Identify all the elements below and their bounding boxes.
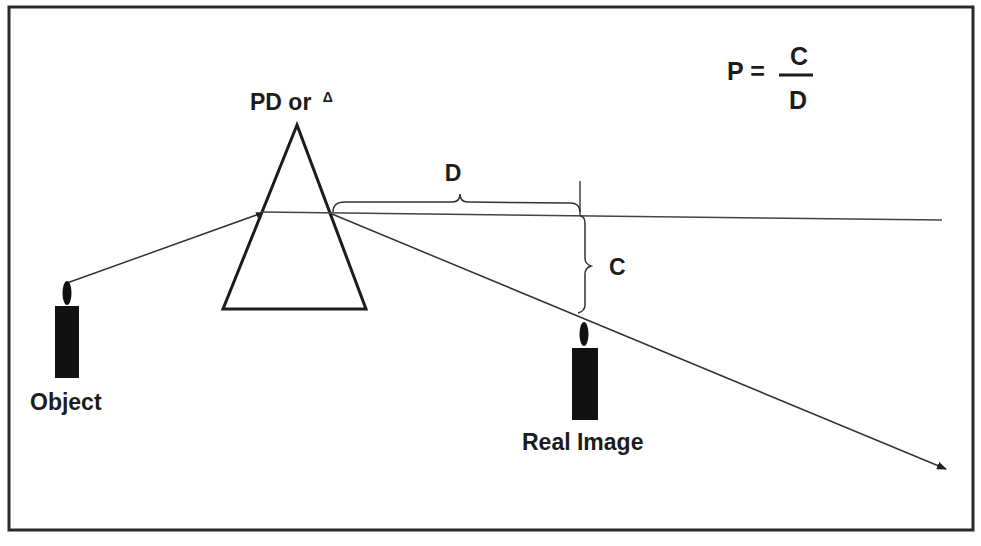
displacement-brace (578, 216, 591, 313)
prism-power-formula: P = C D (727, 42, 813, 114)
prism-diagram: P = C D PD or Δ D C Object Real Image (0, 0, 981, 546)
distance-brace (333, 194, 580, 212)
prism-label: PD or Δ (250, 89, 333, 115)
formula-lhs: P = (727, 57, 765, 85)
prism-delta-symbol: Δ (323, 89, 333, 105)
object-label: Object (30, 389, 102, 415)
prism-label-text: PD or (250, 89, 311, 115)
object-candle-body (55, 306, 79, 378)
image-candle-body (572, 348, 598, 420)
formula-denominator: D (789, 86, 807, 114)
object-flame (63, 281, 72, 305)
diagram-frame (9, 7, 973, 530)
object-candle-icon (55, 281, 79, 378)
undeviated-reference-line (262, 212, 942, 220)
distance-label: D (445, 160, 462, 186)
real-image-label: Real Image (522, 429, 643, 455)
image-flame (580, 322, 589, 346)
real-image-candle-icon (572, 322, 598, 420)
prism-triangle (223, 125, 366, 309)
incident-ray (67, 213, 262, 283)
displacement-label: C (609, 254, 626, 280)
formula-numerator: C (790, 42, 808, 70)
